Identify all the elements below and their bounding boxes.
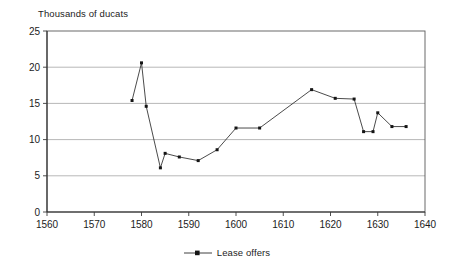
svg-text:1620: 1620 <box>319 219 342 230</box>
x-axis-tick-labels: 156015701580159016001610162016301640 <box>36 219 437 230</box>
legend-entry-lease-offers: Lease offers <box>184 247 270 258</box>
svg-text:1580: 1580 <box>130 219 153 230</box>
svg-text:1630: 1630 <box>367 219 390 230</box>
svg-text:1640: 1640 <box>414 219 437 230</box>
chart-plot-area: 0510152025 15601570158015901600161016201… <box>0 0 454 279</box>
legend-label-lease-offers: Lease offers <box>217 247 270 258</box>
tickmarks-group <box>43 31 425 216</box>
svg-text:1590: 1590 <box>178 219 201 230</box>
svg-text:10: 10 <box>29 134 41 145</box>
chart-figure: Thousands of ducats 0510152025 156015701… <box>0 0 454 279</box>
series-lease-offers <box>131 61 408 169</box>
legend-line-marker-icon <box>184 248 212 258</box>
svg-text:1610: 1610 <box>272 219 295 230</box>
gridlines-group <box>47 67 425 176</box>
svg-text:1560: 1560 <box>36 219 59 230</box>
svg-text:0: 0 <box>34 207 40 218</box>
svg-text:15: 15 <box>29 98 41 109</box>
y-axis-tick-labels: 0510152025 <box>29 26 41 218</box>
svg-text:5: 5 <box>34 170 40 181</box>
svg-text:1570: 1570 <box>83 219 106 230</box>
svg-text:1600: 1600 <box>225 219 248 230</box>
svg-text:20: 20 <box>29 62 41 73</box>
plot-frame <box>47 31 425 212</box>
chart-legend: Lease offers <box>0 247 454 260</box>
svg-text:25: 25 <box>29 26 41 37</box>
